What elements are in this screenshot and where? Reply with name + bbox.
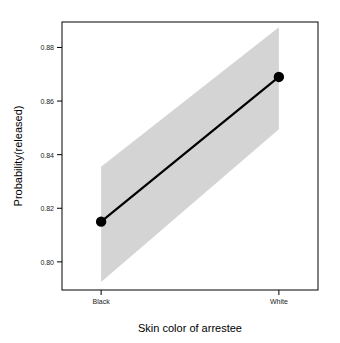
x-tick-label-black: Black — [93, 298, 111, 305]
y-tick-marks — [57, 47, 62, 261]
data-point-black — [96, 216, 106, 226]
chart-canvas: 0.88 0.86 0.84 0.82 0.80 Black White Ski… — [0, 0, 340, 343]
data-point-white — [274, 72, 284, 82]
y-axis-title: Probability(released) — [12, 106, 24, 207]
x-axis-title: Skin color of arrestee — [138, 322, 242, 334]
effect-plot: 0.88 0.86 0.84 0.82 0.80 Black White Ski… — [0, 0, 340, 343]
y-tick-label-1: 0.86 — [40, 98, 54, 105]
y-tick-label-4: 0.80 — [40, 259, 54, 266]
confidence-band — [101, 27, 279, 282]
y-tick-label-0: 0.88 — [40, 44, 54, 51]
y-tick-label-3: 0.82 — [40, 205, 54, 212]
x-tick-marks — [101, 290, 279, 295]
x-tick-label-white: White — [270, 298, 288, 305]
y-tick-label-2: 0.84 — [40, 152, 54, 159]
